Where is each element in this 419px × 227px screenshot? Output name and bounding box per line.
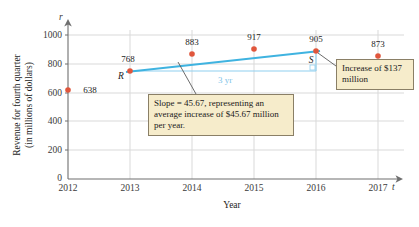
x-tick-2017: 2017 bbox=[369, 183, 388, 193]
point-name-S: S bbox=[309, 55, 314, 65]
data-point-2014[interactable] bbox=[189, 51, 195, 57]
label-917: 917 bbox=[247, 32, 261, 42]
y-axis-title: Revenue for fourth quarter (in millions … bbox=[12, 53, 35, 155]
y-tick-0: 0 bbox=[57, 173, 62, 183]
x-tick-2012: 2012 bbox=[59, 183, 78, 193]
y-axis-title-line2: (in millions of dollars) bbox=[24, 62, 35, 148]
data-point-2017[interactable] bbox=[375, 53, 381, 59]
y-axis-variable: r bbox=[59, 12, 63, 22]
data-point-2015[interactable] bbox=[251, 46, 257, 52]
secant-line bbox=[126, 51, 320, 72]
data-point-2016-S[interactable] bbox=[313, 48, 319, 54]
y-tick-1000: 1000 bbox=[43, 30, 62, 40]
x-tick-2014: 2014 bbox=[183, 183, 202, 193]
y-tick-600: 600 bbox=[48, 88, 63, 98]
label-873: 873 bbox=[371, 39, 385, 49]
y-axis bbox=[64, 19, 72, 179]
data-points bbox=[65, 46, 381, 93]
x-axis bbox=[68, 175, 403, 183]
data-point-2013-R[interactable] bbox=[127, 68, 133, 74]
right-angle-marker bbox=[310, 65, 315, 70]
data-point-2012[interactable] bbox=[65, 87, 71, 93]
label-768: 768 bbox=[121, 54, 135, 64]
slope-callout-leader bbox=[178, 62, 196, 94]
label-883: 883 bbox=[185, 37, 199, 47]
x-tick-2016: 2016 bbox=[307, 183, 326, 193]
run-annotation-label: 3 yr bbox=[218, 75, 232, 85]
y-tick-400: 400 bbox=[48, 116, 63, 126]
x-axis-title: Year bbox=[223, 200, 241, 210]
x-tick-2013: 2013 bbox=[121, 183, 140, 193]
y-tick-labels: 1000 800 600 400 200 0 bbox=[43, 30, 62, 183]
label-905: 905 bbox=[309, 34, 323, 44]
y-tick-200: 200 bbox=[48, 145, 63, 155]
slope-callout: Slope = 45.67, representing an average i… bbox=[148, 94, 294, 136]
revenue-secant-line-figure: r t 1000 800 600 400 200 0 2012 2013 201… bbox=[0, 0, 419, 227]
increase-callout: Increase of $137 million bbox=[336, 59, 414, 90]
y-tick-800: 800 bbox=[48, 59, 63, 69]
point-name-R: R bbox=[117, 71, 124, 81]
x-tick-2015: 2015 bbox=[245, 183, 264, 193]
x-tick-labels: 2012 2013 2014 2015 2016 2017 bbox=[59, 183, 388, 193]
label-638: 638 bbox=[83, 85, 97, 95]
y-axis-title-line1: Revenue for fourth quarter bbox=[12, 53, 22, 155]
x-axis-variable: t bbox=[392, 182, 395, 192]
